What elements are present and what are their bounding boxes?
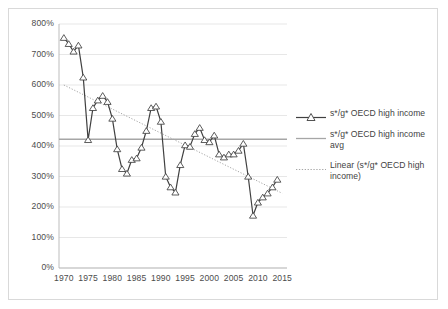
y-axis-tick-label: 400% <box>32 140 54 150</box>
data-point-marker[interactable] <box>216 151 223 157</box>
data-point-marker[interactable] <box>99 93 106 99</box>
data-point-marker[interactable] <box>211 132 218 138</box>
data-point-marker[interactable] <box>89 105 96 111</box>
data-point-marker[interactable] <box>274 176 281 182</box>
data-point-marker[interactable] <box>80 74 87 80</box>
data-point-marker[interactable] <box>109 115 116 121</box>
legend-item-trendline[interactable]: Linear (s*/g* OECD high income) <box>296 160 438 182</box>
data-point-marker[interactable] <box>114 146 121 152</box>
solid-line-key <box>296 130 326 141</box>
legend-label: s*/g* OECD high income <box>330 108 425 119</box>
y-axis-tick-label: 700% <box>32 49 54 59</box>
data-point-marker[interactable] <box>235 147 242 153</box>
data-point-marker[interactable] <box>75 42 82 48</box>
data-point-marker[interactable] <box>133 155 140 161</box>
legend-label: s*/g* OECD high income avg <box>330 129 438 151</box>
data-point-marker[interactable] <box>138 144 145 150</box>
chart-legend: s*/g* OECD high income s*/g* OECD high i… <box>296 108 438 191</box>
data-point-marker[interactable] <box>60 35 67 41</box>
y-axis-tick-label: 500% <box>32 110 54 120</box>
y-axis-tick-label: 100% <box>32 232 54 242</box>
data-point-marker[interactable] <box>249 212 256 218</box>
legend-item-series[interactable]: s*/g* OECD high income <box>296 108 438 120</box>
legend-item-average[interactable]: s*/g* OECD high income avg <box>296 129 438 151</box>
y-axis-tick-label: 600% <box>32 79 54 89</box>
y-axis-tick-label: 800% <box>32 18 54 28</box>
y-axis-tick-label: 300% <box>32 171 54 181</box>
legend-label: Linear (s*/g* OECD high income) <box>330 160 438 182</box>
data-point-marker[interactable] <box>143 128 150 134</box>
data-point-marker[interactable] <box>157 119 164 125</box>
x-axis-tick-label: 2015 <box>268 273 296 283</box>
y-axis-tick-label: 0% <box>41 262 54 272</box>
data-point-marker[interactable] <box>119 166 126 172</box>
y-axis-tick-label: 200% <box>32 201 54 211</box>
data-point-marker[interactable] <box>240 140 247 146</box>
line-marker-key <box>296 109 326 120</box>
data-point-marker[interactable] <box>152 103 159 109</box>
data-point-marker[interactable] <box>177 162 184 168</box>
data-point-marker[interactable] <box>167 184 174 190</box>
data-point-marker[interactable] <box>196 125 203 131</box>
dotted-line-key <box>296 161 326 172</box>
